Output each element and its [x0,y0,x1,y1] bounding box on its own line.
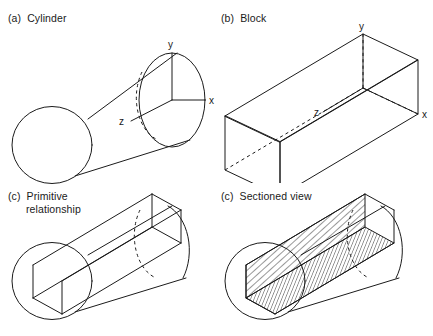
axis-x-line [363,88,418,114]
block-front-face [280,60,418,183]
axis-y-label: y [168,39,173,50]
axis-z-line [323,88,363,112]
block-floor-far-edge [152,227,181,243]
axis-z-label: z [119,116,124,127]
panel-c-primitive-relationship-drawing [0,186,220,336]
block-top-face [225,34,418,142]
cylinder-top-silhouette [88,206,172,255]
cylinder-hidden-arc [134,210,156,278]
panel-a-cylinder-drawing: y x z [0,18,220,198]
figure-container: (a) Cylinder y x z (b) Block [0,0,433,336]
block-floor-left-edge [33,227,152,298]
axis-x-label: x [422,109,427,120]
axis-y-label: y [359,21,364,32]
section-top-far-edge [365,194,394,210]
cylinder-top-silhouette [88,53,177,119]
panel-d-sectioned-view-drawing [213,186,433,336]
block-floor-near-edge [33,298,62,314]
block-top-far-edge [152,194,181,210]
block-left-end-face [225,116,280,183]
cylinder-near-face [12,107,92,184]
axis-z-label: z [314,107,319,118]
panel-b-block-drawing: y x z [213,18,433,183]
